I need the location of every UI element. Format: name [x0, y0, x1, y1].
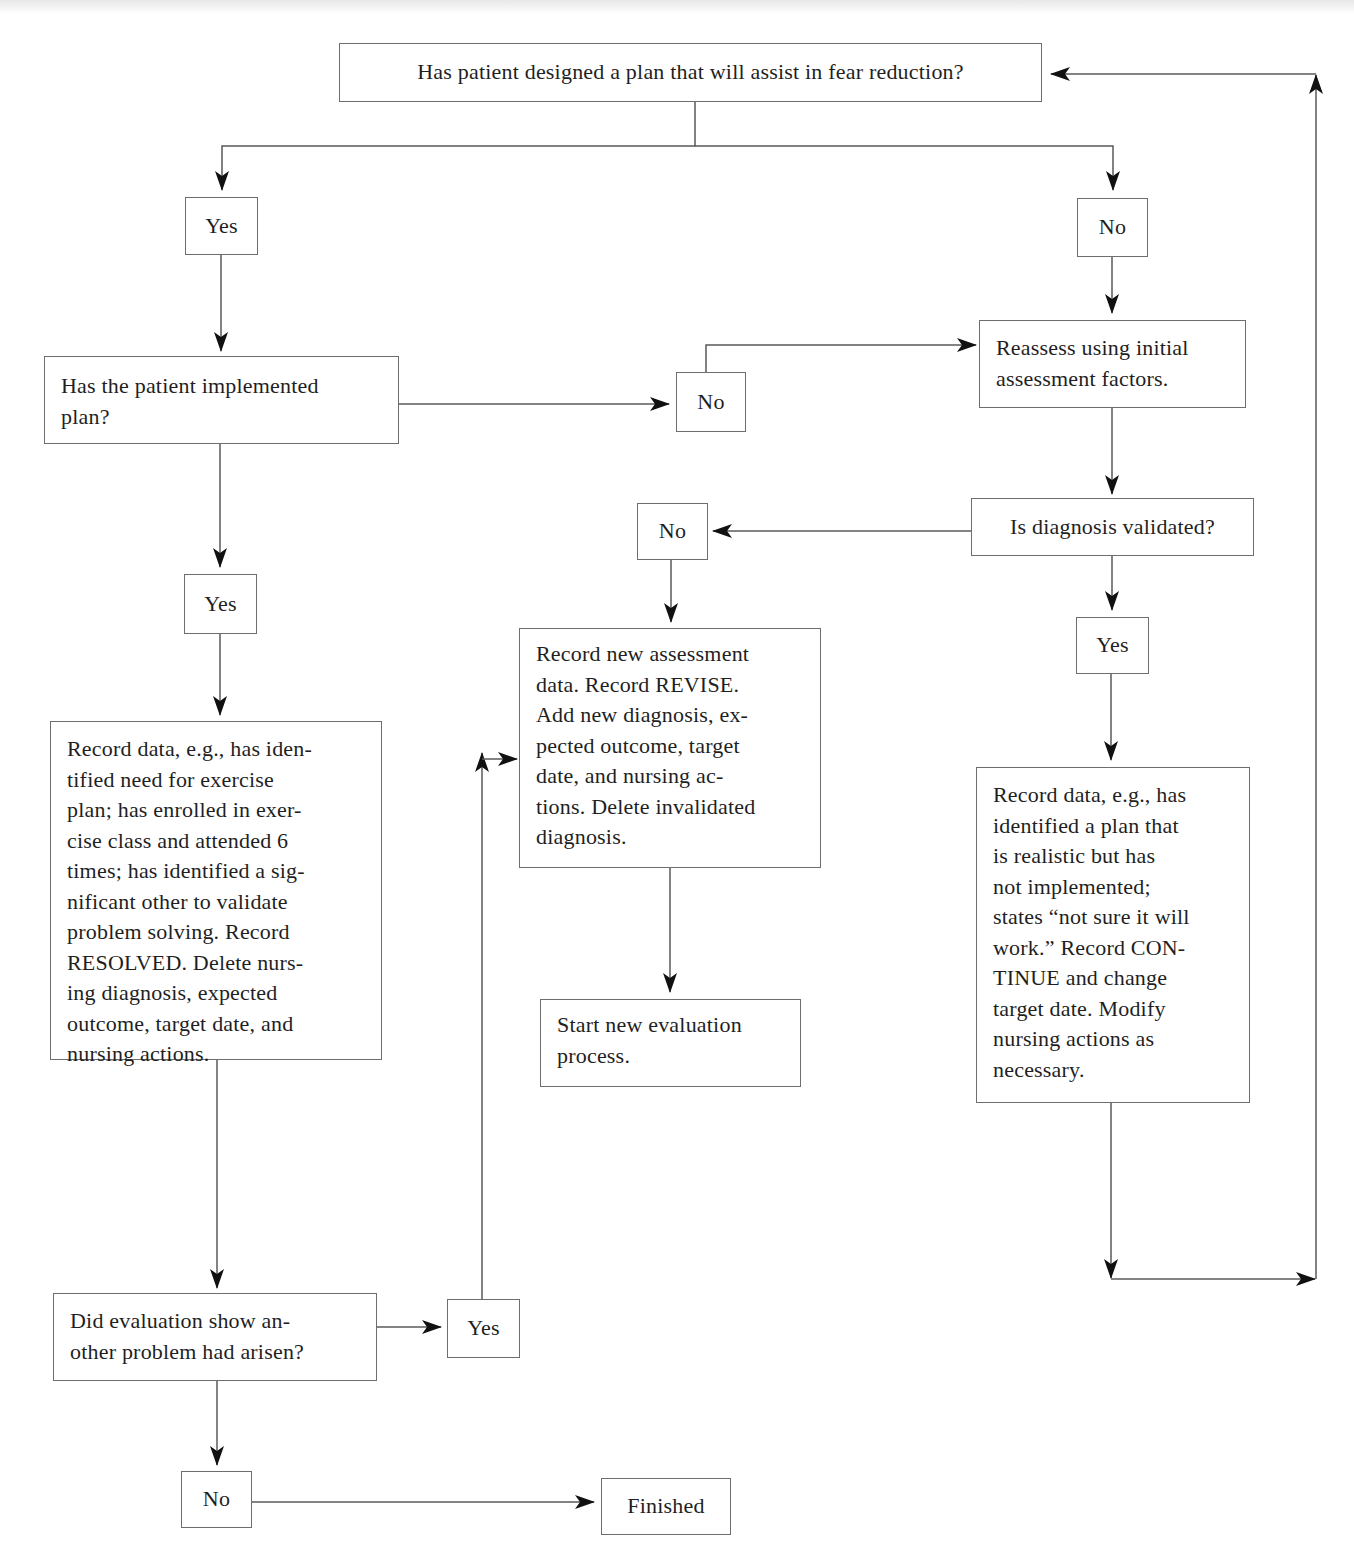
node-text: Has the patient implemented plan?	[61, 373, 319, 429]
node-text: No	[659, 516, 686, 547]
flowchart-canvas: Has patient designed a plan that will as…	[0, 0, 1354, 1563]
node-text: Record data, e.g., has identified a plan…	[993, 782, 1190, 1082]
node-diagnosis-validated-question: Is diagnosis validated?	[971, 498, 1254, 556]
node-text: No	[697, 387, 724, 418]
node-no-implemented: No	[676, 372, 746, 432]
node-yes-implemented: Yes	[184, 574, 257, 634]
node-reassess: Reassess using initial assessment factor…	[979, 320, 1246, 408]
node-text: Yes	[205, 211, 238, 242]
node-yes-validated: Yes	[1076, 617, 1149, 674]
node-text: Start new evaluation process.	[557, 1012, 742, 1068]
node-another-problem-question: Did evaluation show an- other problem ha…	[53, 1293, 377, 1381]
node-no-plan-designed: No	[1077, 198, 1148, 257]
node-start-new-evaluation: Start new evaluation process.	[540, 999, 801, 1087]
node-text: Finished	[627, 1491, 704, 1522]
node-no-validated: No	[637, 503, 708, 560]
node-record-continue: Record data, e.g., has identified a plan…	[976, 767, 1250, 1103]
node-record-resolved: Record data, e.g., has iden- tified need…	[50, 721, 382, 1060]
node-text: Yes	[204, 589, 237, 620]
node-text: Reassess using initial assessment factor…	[996, 335, 1189, 391]
node-text: Yes	[1096, 630, 1129, 661]
node-text: No	[1099, 212, 1126, 243]
scan-edge	[0, 0, 1354, 14]
node-record-revise: Record new assessment data. Record REVIS…	[519, 628, 821, 868]
node-text: Record new assessment data. Record REVIS…	[536, 641, 755, 849]
node-yes-another-problem: Yes	[447, 1299, 520, 1358]
node-implemented-question: Has the patient implemented plan?	[44, 356, 399, 444]
node-text: Is diagnosis validated?	[1010, 512, 1215, 543]
node-no-another-problem: No	[181, 1471, 252, 1528]
node-text: Yes	[467, 1313, 500, 1344]
node-text: No	[203, 1484, 230, 1515]
node-plan-designed-question: Has patient designed a plan that will as…	[339, 43, 1042, 102]
node-finished: Finished	[601, 1478, 731, 1535]
node-text: Record data, e.g., has iden- tified need…	[67, 736, 312, 1066]
node-text: Has patient designed a plan that will as…	[417, 57, 964, 88]
node-yes-plan-designed: Yes	[185, 197, 258, 255]
node-text: Did evaluation show an- other problem ha…	[70, 1308, 304, 1364]
